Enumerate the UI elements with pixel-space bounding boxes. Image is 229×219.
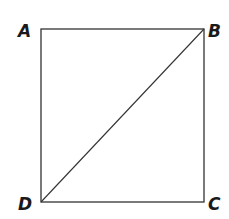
vertex-label-d: D bbox=[18, 194, 32, 214]
vertex-label-b: B bbox=[208, 21, 221, 41]
vertex-label-c: C bbox=[208, 194, 221, 214]
square-diagram: A B C D bbox=[0, 0, 229, 219]
vertex-label-a: A bbox=[16, 21, 31, 41]
diagonal-db bbox=[41, 29, 204, 202]
